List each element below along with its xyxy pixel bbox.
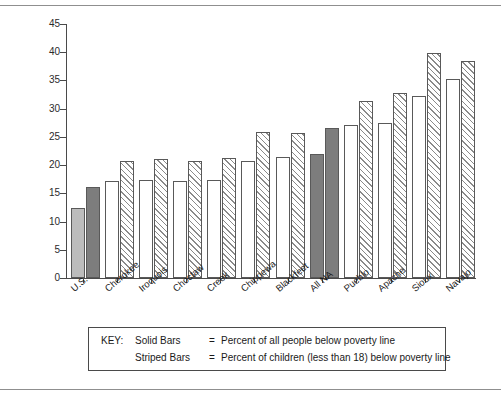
bar-group: [173, 24, 202, 278]
poverty-bar-chart-figure: Percent 051015202530354045 U.S.CherokeeI…: [0, 0, 501, 397]
y-axis-tick: [60, 24, 66, 25]
bar-group: [378, 24, 407, 278]
legend-key-title: KEY:: [101, 333, 135, 349]
bar: [154, 159, 168, 278]
top-divider-rule: [0, 5, 501, 6]
bar-group: [310, 24, 339, 278]
y-axis-tick: [60, 80, 66, 81]
y-axis-tick: [60, 278, 66, 279]
bar-group: [207, 24, 236, 278]
bar: [86, 187, 100, 278]
bar: [427, 53, 441, 278]
y-axis-tick-label: 25: [20, 132, 60, 142]
bar: [241, 161, 255, 278]
bar: [412, 96, 426, 278]
y-axis-tick: [60, 193, 66, 194]
bar: [71, 208, 85, 278]
bar: [291, 133, 305, 278]
bar: [310, 154, 324, 278]
bar: [173, 181, 187, 278]
legend-striped-label: Striped Bars: [135, 350, 209, 366]
bar-group: [71, 24, 100, 278]
legend-row-striped: Striped Bars=Percent of children (less t…: [101, 350, 451, 366]
bar: [105, 181, 119, 278]
bar-group: [412, 24, 441, 278]
legend-solid-equals: =: [209, 333, 221, 349]
bar: [344, 125, 358, 278]
bar: [139, 180, 153, 278]
bar-group: [344, 24, 373, 278]
bar: [325, 128, 339, 278]
y-axis-tick-labels: 051015202530354045: [16, 24, 60, 278]
bar: [461, 61, 475, 278]
y-axis-tick: [60, 137, 66, 138]
y-axis-tick-label: 20: [20, 160, 60, 170]
bar: [393, 93, 407, 278]
y-axis-tick-label: 5: [20, 245, 60, 255]
y-axis-tick-label: 0: [20, 273, 60, 283]
bar: [378, 123, 392, 278]
y-axis-tick-label: 45: [20, 19, 60, 29]
y-axis-line: [66, 24, 67, 278]
bar: [276, 157, 290, 278]
legend-row-solid: KEY:Solid Bars=Percent of all people bel…: [101, 333, 395, 349]
legend-solid-label: Solid Bars: [135, 333, 209, 349]
legend-solid-description: Percent of all people below poverty line: [221, 335, 395, 346]
bar-group: [241, 24, 270, 278]
y-axis-tick: [60, 250, 66, 251]
y-axis-tick: [60, 165, 66, 166]
y-axis-tick: [60, 109, 66, 110]
bar: [359, 101, 373, 278]
y-axis-tick-label: 15: [20, 188, 60, 198]
chart-legend-key: KEY:Solid Bars=Percent of all people bel…: [88, 327, 446, 371]
y-axis-tick: [60, 52, 66, 53]
plot-area: U.S.CherokeeIroquoisChoctawCreekChippewa…: [66, 24, 476, 278]
y-axis-tick-label: 10: [20, 217, 60, 227]
bar-group: [139, 24, 168, 278]
y-axis-tick-label: 30: [20, 104, 60, 114]
y-axis-tick-label: 40: [20, 47, 60, 57]
bar-group: [276, 24, 305, 278]
bar: [256, 132, 270, 278]
legend-striped-description: Percent of children (less than 18) below…: [221, 352, 451, 363]
bar: [207, 180, 221, 278]
bottom-divider-rule: [0, 389, 501, 390]
y-axis-tick-label: 35: [20, 75, 60, 85]
bar-group: [446, 24, 475, 278]
bar: [446, 79, 460, 278]
bar: [188, 161, 202, 278]
bar: [222, 158, 236, 278]
y-axis-tick: [60, 222, 66, 223]
legend-striped-equals: =: [209, 350, 221, 366]
bar-group: [105, 24, 134, 278]
